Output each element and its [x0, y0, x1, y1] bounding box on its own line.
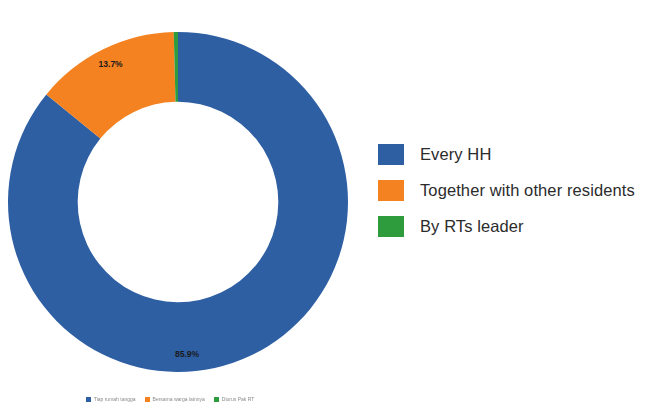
legend-original-label-diurus-pak-rt: Diurus Pak RT: [222, 396, 254, 402]
legend-label-by-rts-leader: By RTs leader: [420, 217, 524, 236]
legend-swatch-together-with-other-residents: [378, 180, 404, 201]
legend-original-item-tiap-rumah-tangga[interactable]: Tiap rumah tangga: [86, 396, 136, 402]
legend-item-by-rts-leader[interactable]: By RTs leader: [378, 208, 668, 244]
legend-original-swatch-tiap-rumah-tangga: [86, 397, 91, 402]
legend-swatch-by-rts-leader: [378, 216, 404, 237]
legend-swatch-every-hh: [378, 144, 404, 165]
chart-legend-original: Tiap rumah tangga Bersama warga lainnya …: [0, 396, 340, 402]
legend-original-swatch-diurus-pak-rt: [214, 397, 219, 402]
pie-slice-label-together-with-other-residents: 13.7%: [99, 59, 124, 69]
pie-slice-label-every-hh: 85.9%: [175, 349, 200, 359]
donut-chart: 85.9% 13.7%: [8, 32, 348, 372]
donut-chart-svg: 85.9% 13.7%: [8, 32, 348, 372]
legend-label-together-with-other-residents: Together with other residents: [420, 181, 635, 200]
donut-chart-figure: 85.9% 13.7% Every HH Together with other…: [0, 0, 672, 418]
legend-original-label-tiap-rumah-tangga: Tiap rumah tangga: [94, 396, 136, 402]
chart-legend: Every HH Together with other residents B…: [378, 136, 668, 244]
legend-original-label-bersama-warga-lainnya: Bersama warga lainnya: [153, 396, 205, 402]
legend-label-every-hh: Every HH: [420, 145, 491, 164]
legend-item-every-hh[interactable]: Every HH: [378, 136, 668, 172]
legend-item-together-with-other-residents[interactable]: Together with other residents: [378, 172, 668, 208]
legend-original-swatch-bersama-warga-lainnya: [145, 397, 150, 402]
legend-original-item-diurus-pak-rt[interactable]: Diurus Pak RT: [214, 396, 254, 402]
legend-original-item-bersama-warga-lainnya[interactable]: Bersama warga lainnya: [145, 396, 205, 402]
